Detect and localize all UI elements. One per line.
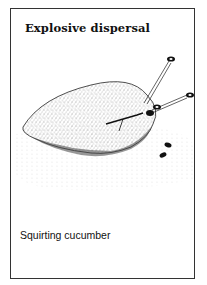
illustration-card: Explosive dispersal <box>10 8 195 279</box>
card-caption: Squirting cucumber <box>20 229 110 241</box>
